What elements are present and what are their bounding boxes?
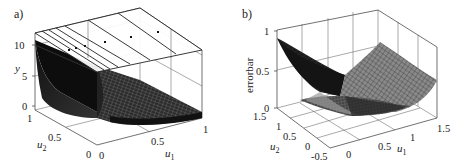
- b-x-tick-1: 1: [410, 132, 415, 143]
- panel-b-x-axis-label: u1: [397, 142, 407, 157]
- a-y-tick-0: 0: [86, 149, 91, 160]
- panel-b: b) 1 0.5 0 errorbar 1.5 1 0.5 0 -0.5 u2 …: [242, 7, 450, 162]
- a-z-tick-0: 0: [22, 101, 27, 112]
- b-y-tick-0: 0: [305, 141, 310, 152]
- a-x-tick-1: 1: [203, 124, 208, 135]
- panel-a-x-axis-label: u1: [165, 147, 175, 162]
- panel-a-x-ticks: 0 0.5 1: [99, 124, 208, 161]
- figure-canvas: a) 10 5 0 y 1 0.5 0 u2 0 0.5 1 u1: [0, 0, 455, 167]
- b-x-tick-15: 1.5: [437, 123, 450, 134]
- panel-b-y-ticks: 1.5 1 0.5 0 -0.5: [253, 111, 328, 162]
- b-y-tick-1: 1: [276, 121, 281, 132]
- b-x-tick-0: 0: [346, 149, 351, 160]
- panel-a-z-ticks: 10 5 0: [14, 40, 35, 112]
- b-y-tick-neg05: -0.5: [311, 151, 328, 162]
- a-y-tick-1: 1: [27, 113, 32, 124]
- a-x-tick-0: 0: [99, 150, 104, 161]
- b-z-tick-05: 0.5: [256, 66, 269, 77]
- panel-a-label: a): [14, 7, 23, 21]
- b-y-tick-05: 0.5: [283, 131, 296, 142]
- panel-b-y-axis-label: u2: [270, 140, 280, 155]
- panel-a: a) 10 5 0 y 1 0.5 0 u2 0 0.5 1 u1: [14, 7, 208, 162]
- a-z-tick-5: 5: [22, 71, 27, 82]
- a-x-tick-05: 0.5: [151, 136, 164, 147]
- b-y-tick-15: 1.5: [253, 111, 266, 122]
- panel-b-label: b): [242, 7, 252, 21]
- b-x-tick-05: 0.5: [378, 141, 391, 152]
- b-z-tick-1: 1: [264, 26, 269, 37]
- panel-a-y-axis-label: u2: [37, 138, 47, 153]
- panel-b-z-ticks: 1 0.5 0: [256, 26, 277, 114]
- a-z-tick-10: 10: [14, 40, 25, 51]
- panel-b-z-axis-label: errorbar: [243, 57, 255, 93]
- panel-a-z-axis-label: y: [14, 62, 20, 74]
- a-y-tick-05: 0.5: [48, 132, 61, 143]
